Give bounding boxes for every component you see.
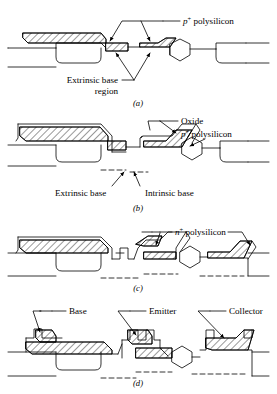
label-p-polysilicon-a: p+ polysilicon bbox=[182, 15, 234, 26]
callout-intrinsic-base-b bbox=[134, 172, 140, 186]
label-extrinsic-base-b: Extrinsic base bbox=[55, 188, 106, 198]
panel-c bbox=[8, 232, 269, 278]
label-extrinsic-base-region-l1: Extrinsic base bbox=[67, 75, 118, 85]
callout-collector-d bbox=[198, 311, 226, 338]
figure-svg: p+ polysilicon Extrinsic base region (a)… bbox=[0, 0, 277, 394]
caption-a: (a) bbox=[133, 98, 143, 108]
panel-d bbox=[8, 329, 269, 378]
label-oxide-b: Oxide bbox=[181, 116, 203, 126]
label-base-d: Base bbox=[69, 306, 87, 316]
panel-a bbox=[8, 33, 269, 67]
process-cross-section-figure: p+ polysilicon Extrinsic base region (a)… bbox=[0, 0, 277, 394]
label-intrinsic-base-b: Intrinsic base bbox=[145, 188, 194, 198]
caption-c: (c) bbox=[133, 283, 143, 293]
caption-b: (b) bbox=[133, 203, 143, 213]
callout-oxide-b bbox=[148, 121, 178, 133]
label-emitter-d: Emitter bbox=[149, 306, 176, 316]
label-n-polysilicon-c: n+ polysilicon bbox=[175, 226, 226, 237]
callout-extrinsic-base-b bbox=[112, 172, 124, 186]
label-extrinsic-base-region-l2: region bbox=[95, 86, 119, 96]
callout-extrinsic-base-region-a bbox=[116, 53, 150, 80]
label-collector-d: Collector bbox=[229, 306, 263, 316]
caption-d: (d) bbox=[133, 378, 143, 388]
